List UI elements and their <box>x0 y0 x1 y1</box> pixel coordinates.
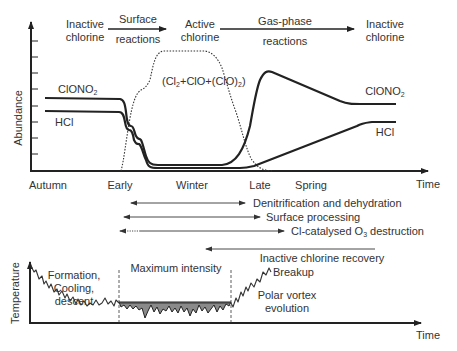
stage-active-line2: chlorine <box>181 31 220 43</box>
arrow1-label-line2: reactions <box>116 33 161 45</box>
stage-inactive-2-line2: chlorine <box>366 31 405 43</box>
phase-evolution-line2: evolution <box>265 302 309 314</box>
phase-max-intensity: Maximum intensity <box>130 262 222 274</box>
cl-destruction-label: Cl-catalysed O3 destruction <box>291 225 424 238</box>
clono2-label-right: ClONO2 <box>365 85 404 98</box>
arrow1-label-line1: Surface <box>119 13 157 25</box>
temperature-chart: Temperature Time Formation, Cooling, des… <box>9 262 440 341</box>
chlorine-activation-diagram: Inactive chlorine Surface reactions Acti… <box>0 0 457 351</box>
denitrification-label: Denitrification and dehydration <box>253 197 402 209</box>
chlorine-recovery-label: Inactive chlorine recovery <box>260 252 385 264</box>
header-flow: Inactive chlorine Surface reactions Acti… <box>66 13 405 47</box>
hcl-label-left: HCl <box>55 116 73 128</box>
tick-winter: Winter <box>176 179 208 191</box>
tick-late: Late <box>249 179 270 191</box>
process-arrows: Denitrification and dehydration Surface … <box>120 197 424 264</box>
abundance-axis-label: Abundance <box>12 90 24 146</box>
phase-evolution-line1: Polar vortex <box>258 289 317 301</box>
tick-autumn: Autumn <box>29 179 67 191</box>
active-chlorine-label: (Cl2+ClO+(ClO)2) <box>162 75 246 88</box>
tick-spring: Spring <box>295 179 327 191</box>
clono2-label-left: ClONO2 <box>58 83 97 96</box>
time-axis-label: Time <box>416 178 440 190</box>
arrow2-label-line2: reactions <box>263 35 308 47</box>
phase-breakup: Breakup <box>273 266 314 278</box>
phase-formation-line3: descent <box>55 295 94 307</box>
hcl-curve <box>45 111 396 168</box>
stage-inactive-1-line1: Inactive <box>66 18 104 30</box>
temperature-time-label: Time <box>416 329 440 341</box>
surface-processing-label: Surface processing <box>266 211 360 223</box>
max-intensity-shading <box>119 302 231 318</box>
phase-formation-line2: Cooling, <box>54 282 94 294</box>
stage-inactive-1-line2: chlorine <box>66 31 105 43</box>
stage-inactive-2-line1: Inactive <box>366 18 404 30</box>
y-ticks <box>31 41 38 154</box>
temperature-axis-label: Temperature <box>9 262 21 324</box>
phase-formation-line1: Formation, <box>48 269 101 281</box>
tick-early: Early <box>107 179 133 191</box>
abundance-chart: Abundance Time Autumn Early Winter Late … <box>12 22 440 191</box>
arrow2-label-line1: Gas-phase <box>258 15 312 27</box>
hcl-label-right: HCl <box>376 126 394 138</box>
stage-active-line1: Active <box>185 18 215 30</box>
